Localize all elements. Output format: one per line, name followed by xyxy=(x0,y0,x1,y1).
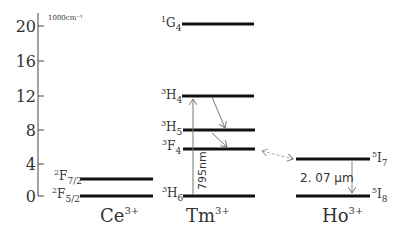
ion-label-ho: Ho3+ xyxy=(322,205,363,226)
tick-16: 16 xyxy=(16,52,36,71)
relaxation-arrow-3h5-3f4 xyxy=(212,133,227,147)
tm-level-3h5-label: 3H5 xyxy=(161,119,183,137)
tm-levels: 1G4 3H4 3H5 3F4 3H6 795nm Tm3+ xyxy=(161,15,255,226)
tm-level-3h4-label: 3H4 xyxy=(161,87,183,105)
ho-levels: 5I7 5I8 2. 07 μm Ho3+ xyxy=(296,150,388,226)
tm-level-3f4-label: 3F4 xyxy=(162,138,181,156)
tick-8: 8 xyxy=(26,121,36,140)
ho-level-5i7-label: 5I7 xyxy=(372,150,388,168)
tick-20: 20 xyxy=(16,17,36,36)
tick-0: 0 xyxy=(26,187,36,206)
ion-label-ce: Ce3+ xyxy=(100,205,139,226)
pump-wavelength-label: 795nm xyxy=(196,151,209,190)
ce-level-2f72-label: 2F7/2 xyxy=(54,168,82,186)
ho-level-5i8-label: 5I8 xyxy=(372,186,388,204)
tm-level-3h6-label: 3H6 xyxy=(162,185,184,203)
energy-level-diagram: 20 16 12 8 4 0 1000cm⁻¹ 2F7/2 2F5/2 Ce3+… xyxy=(0,0,405,238)
ce-levels: 2F7/2 2F5/2 Ce3+ xyxy=(52,168,153,226)
energy-transfer-arrow xyxy=(262,151,293,159)
tick-4: 4 xyxy=(26,155,36,174)
ion-label-tm: Tm3+ xyxy=(186,205,230,226)
tm-level-1g4-label: 1G4 xyxy=(161,15,182,33)
tick-12: 12 xyxy=(16,87,36,106)
ce-level-2f52-label: 2F5/2 xyxy=(52,186,80,204)
emission-wavelength-label: 2. 07 μm xyxy=(300,171,354,185)
relaxation-arrow-3h4-3h5 xyxy=(212,97,225,128)
axis-unit-label: 1000cm⁻¹ xyxy=(48,14,83,22)
